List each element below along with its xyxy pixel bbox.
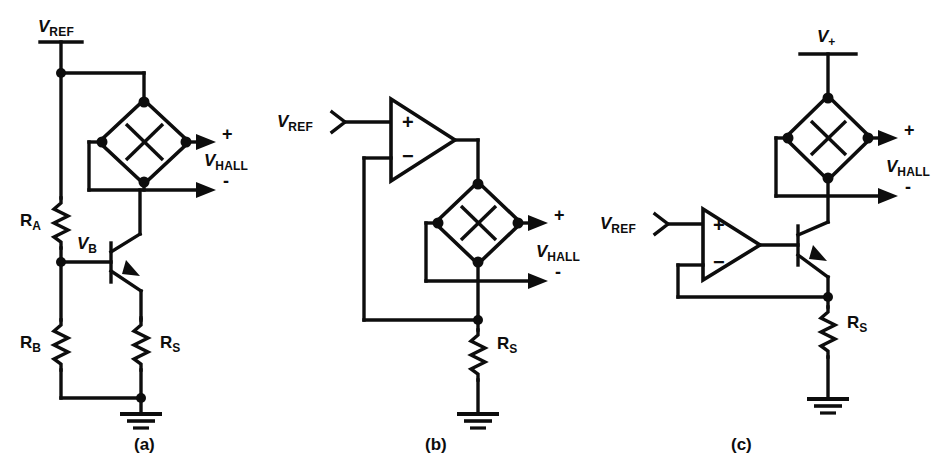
label-resistor-RB: RB <box>20 334 41 354</box>
label-vref-b: VREF <box>277 113 313 133</box>
label-vplus-c: V+ <box>817 28 836 48</box>
vhall-plus-arrow-c <box>878 130 898 146</box>
junction-dot-supply-a <box>56 68 66 78</box>
label-vref-c: VREF <box>600 215 636 235</box>
panel-a-schematic <box>40 42 216 428</box>
caption-panel-b: (b) <box>425 436 447 453</box>
vhall-minus-arrow-c <box>878 188 898 204</box>
opamp-minus-input-b: − <box>402 146 414 166</box>
vhall-plus-arrow-a <box>196 134 216 150</box>
panel-c-schematic <box>655 54 898 413</box>
resistor-RS-symbol-c <box>821 307 835 357</box>
caption-panel-a: (a) <box>134 436 155 453</box>
label-resistor-RS-c: RS <box>847 314 867 334</box>
reference-terminal-symbol-b <box>332 112 345 132</box>
resistor-RB-symbol <box>54 320 68 370</box>
label-vhall-plus-a: + <box>222 125 233 143</box>
transistor-emitter-arrow-c <box>809 245 827 261</box>
vhall-plus-arrow-b <box>528 215 548 231</box>
label-vhall-minus-b: - <box>555 263 561 281</box>
label-vhall-plus-c: + <box>904 121 915 139</box>
label-vhall-plus-b: + <box>554 206 565 224</box>
panel-b-schematic <box>332 99 548 428</box>
label-vhall-c: VHALL <box>886 158 930 178</box>
opamp-minus-input-c: − <box>713 252 725 272</box>
circuit-schematic-canvas <box>0 0 947 474</box>
vhall-minus-arrow-a <box>196 182 216 198</box>
caption-panel-c: (c) <box>731 436 752 453</box>
opamp-triangle-b <box>391 99 455 181</box>
label-vb-a: VB <box>77 235 97 255</box>
label-vhall-minus-c: - <box>905 178 911 196</box>
resistor-RA-symbol <box>54 198 68 248</box>
hall-contact-top-b <box>473 179 484 190</box>
resistor-RS-symbol-b <box>471 330 485 380</box>
label-vhall-minus-a: - <box>223 172 229 190</box>
hall-contact-top-c <box>823 93 834 104</box>
resistor-RS-symbol-a <box>134 320 148 370</box>
hall-contact-top-a <box>139 97 150 108</box>
opamp-plus-input-b: + <box>402 112 414 132</box>
opamp-triangle-c <box>703 209 760 280</box>
figure-root: VREF RA VB RB RS + VHALL - (a) VREF + − … <box>0 0 947 474</box>
transistor-collector-lead-c <box>798 222 828 235</box>
label-resistor-RS-b: RS <box>497 335 517 355</box>
vhall-minus-arrow-b <box>528 273 548 289</box>
label-resistor-RS-a: RS <box>160 334 180 354</box>
label-vref-a: VREF <box>38 18 74 38</box>
label-vhall-b: VHALL <box>536 243 580 263</box>
transistor-emitter-arrow-a <box>122 260 140 276</box>
opamp-plus-input-c: + <box>713 215 725 235</box>
reference-terminal-symbol-c <box>655 214 668 234</box>
label-resistor-RA: RA <box>20 212 41 232</box>
label-vhall-a: VHALL <box>204 152 248 172</box>
transistor-collector-lead-a <box>111 234 140 252</box>
